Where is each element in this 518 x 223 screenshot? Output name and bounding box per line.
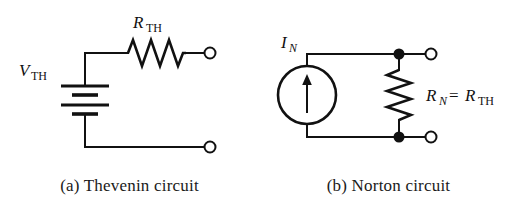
resistor-rth-label: R TH [132, 13, 162, 35]
source-subscript: TH [31, 69, 47, 83]
equiv-resistor-subscript: TH [478, 94, 494, 108]
voltage-source-battery [61, 86, 109, 114]
source-symbol: I [280, 33, 288, 52]
node-dot-bottom [394, 132, 405, 143]
resistor-rn-label: R N = R TH [425, 86, 494, 108]
equals-sign: = [449, 86, 459, 105]
thevenin-caption: (a) Thevenin circuit [0, 176, 259, 196]
thevenin-circuit-panel: R TH V TH (a) Thevenin circuit [0, 0, 259, 223]
resistor-rn [387, 54, 411, 137]
terminal-bottom-open-circle [426, 132, 437, 143]
terminal-top-open-circle [205, 48, 216, 59]
norton-circuit-panel: I N R N = R TH (b) Norton circuit [259, 0, 518, 223]
source-subscript: N [288, 41, 298, 55]
node-dot-top [394, 49, 405, 60]
resistor-symbol: R [132, 13, 144, 32]
voltage-source-label: V TH [19, 61, 47, 83]
current-source [278, 66, 336, 124]
current-source-label: I N [280, 33, 298, 55]
equiv-resistor-symbol: R [464, 86, 476, 105]
terminal-bottom-open-circle [205, 142, 216, 153]
resistor-rth [128, 40, 186, 66]
norton-circuit-drawing: I N R N = R TH [259, 0, 518, 176]
resistor-subscript: N [438, 94, 448, 108]
bottom-wire [85, 114, 205, 147]
norton-caption: (b) Norton circuit [259, 176, 518, 196]
thevenin-circuit-drawing: R TH V TH [0, 0, 259, 176]
thevenin-norton-figure: R TH V TH (a) Thevenin circuit [0, 0, 518, 223]
resistor-subscript: TH [146, 21, 162, 35]
resistor-symbol: R [425, 86, 437, 105]
terminal-top-open-circle [426, 49, 437, 60]
